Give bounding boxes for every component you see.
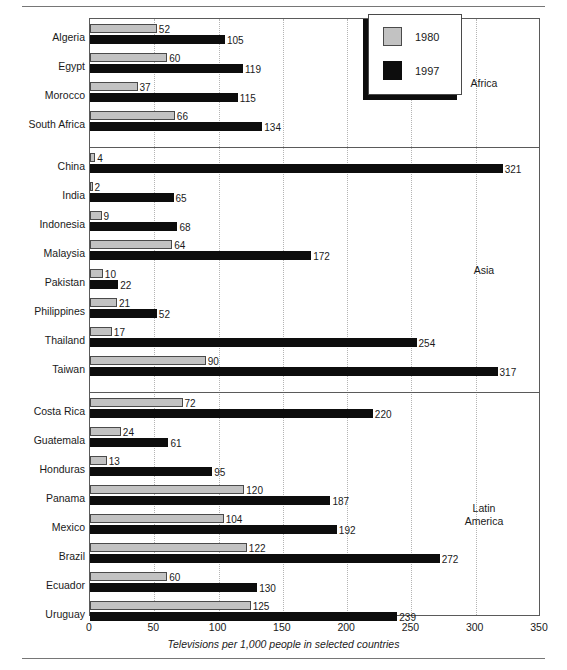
bar-1980: 4	[90, 153, 95, 162]
legend-entry-1980: 1980	[383, 27, 439, 46]
bar-1980: 24	[90, 427, 121, 436]
bar-value-label: 64	[174, 239, 185, 250]
bar-value-label: 37	[140, 81, 151, 92]
bar-1997: 187	[90, 496, 330, 505]
legend-label-1980: 1980	[415, 31, 439, 43]
bar-1980: 66	[90, 111, 175, 120]
bar-value-label: 24	[123, 426, 134, 437]
bar-1980: 64	[90, 240, 172, 249]
bar-1980: 21	[90, 298, 117, 307]
bar-1997: 254	[90, 338, 417, 347]
x-tick-300: 300	[466, 621, 484, 633]
country-label: Indonesia	[39, 218, 85, 230]
bar-group: Brazil122272	[90, 541, 539, 570]
bar-value-label: 61	[170, 437, 181, 448]
region-label: Asia	[443, 264, 525, 277]
bar-1997: 192	[90, 525, 337, 534]
bar-value-label: 272	[442, 553, 459, 564]
bar-value-label: 52	[159, 23, 170, 34]
bar-1980: 60	[90, 53, 167, 62]
bar-1997: 115	[90, 93, 238, 102]
bar-1980: 72	[90, 398, 183, 407]
country-label: Uruguay	[45, 608, 85, 620]
bar-value-label: 9	[104, 210, 110, 221]
country-label: Brazil	[59, 550, 85, 562]
bar-1997: 61	[90, 438, 168, 447]
region-label: Latin America	[443, 502, 525, 528]
bar-1980: 120	[90, 485, 244, 494]
bar-value-label: 321	[505, 163, 522, 174]
bar-group: Thailand17254	[90, 325, 539, 354]
section-africa: Algeria52105Egypt60119Morocco37115South …	[90, 19, 539, 147]
country-label: Egypt	[58, 60, 85, 72]
bottom-rule	[22, 658, 545, 659]
figure: Algeria52105Egypt60119Morocco37115South …	[0, 0, 567, 670]
bar-value-label: 220	[375, 408, 392, 419]
bar-group: India265	[90, 180, 539, 209]
x-tick-100: 100	[209, 621, 227, 633]
bar-value-label: 60	[169, 571, 180, 582]
bar-1980: 52	[90, 24, 157, 33]
bar-value-label: 134	[264, 121, 281, 132]
country-label: Taiwan	[52, 363, 85, 375]
bar-value-label: 21	[119, 297, 130, 308]
bar-group: Honduras1395	[90, 454, 539, 483]
bar-value-label: 10	[105, 268, 116, 279]
bar-value-label: 105	[227, 34, 244, 45]
x-axis-label: Televisions per 1,000 people in selected…	[0, 638, 567, 650]
bar-value-label: 13	[109, 455, 120, 466]
bar-value-label: 130	[259, 582, 276, 593]
bar-value-label: 122	[249, 542, 266, 553]
bar-1997: 95	[90, 467, 212, 476]
bar-value-label: 125	[253, 600, 270, 611]
x-tick-150: 150	[273, 621, 291, 633]
bar-1980: 122	[90, 543, 247, 552]
bar-value-label: 104	[226, 513, 243, 524]
plot-area: Algeria52105Egypt60119Morocco37115South …	[89, 18, 540, 616]
bar-group: Algeria52105	[90, 22, 539, 51]
bar-group: China4321	[90, 151, 539, 180]
section-latin-america: Costa Rica72220Guatemala2461Honduras1395…	[90, 393, 539, 637]
bar-value-label: 65	[176, 192, 187, 203]
bar-value-label: 120	[246, 484, 263, 495]
legend-label-1997: 1997	[415, 65, 439, 77]
bar-value-label: 95	[214, 466, 225, 477]
bar-value-label: 60	[169, 52, 180, 63]
country-label: Philippines	[34, 305, 85, 317]
country-label: Mexico	[52, 521, 85, 533]
legend-swatch-1997-icon	[383, 61, 402, 80]
country-label: China	[58, 160, 85, 172]
country-label: Malaysia	[44, 247, 85, 259]
country-label: Ecuador	[46, 579, 85, 591]
bar-value-label: 317	[500, 366, 517, 377]
bar-group: Costa Rica72220	[90, 396, 539, 425]
bar-1997: 130	[90, 583, 257, 592]
x-tick-350: 350	[530, 621, 548, 633]
bar-group: Ecuador60130	[90, 570, 539, 599]
bar-value-label: 187	[332, 495, 349, 506]
bar-1980: 2	[90, 182, 93, 191]
bar-value-label: 115	[240, 92, 256, 103]
bar-1980: 10	[90, 269, 103, 278]
bar-1997: 105	[90, 35, 225, 44]
x-tick-0: 0	[86, 621, 92, 633]
bar-group: Philippines2152	[90, 296, 539, 325]
bar-value-label: 52	[159, 308, 170, 319]
bar-1980: 13	[90, 456, 107, 465]
bar-1997: 22	[90, 280, 118, 289]
bar-value-label: 72	[185, 397, 196, 408]
bar-value-label: 17	[114, 326, 125, 337]
bar-1980: 9	[90, 211, 102, 220]
bar-1997: 321	[90, 164, 503, 173]
bar-group: Indonesia968	[90, 209, 539, 238]
bar-1997: 119	[90, 64, 243, 73]
legend-box: 1980 1997	[368, 14, 462, 95]
country-label: Thailand	[45, 334, 85, 346]
country-label: Honduras	[39, 463, 85, 475]
bar-1980: 37	[90, 82, 138, 91]
x-tick-200: 200	[337, 621, 355, 633]
bar-value-label: 22	[120, 279, 131, 290]
bar-group: South Africa66134	[90, 109, 539, 138]
bar-1980: 104	[90, 514, 224, 523]
bar-1997: 317	[90, 367, 498, 376]
